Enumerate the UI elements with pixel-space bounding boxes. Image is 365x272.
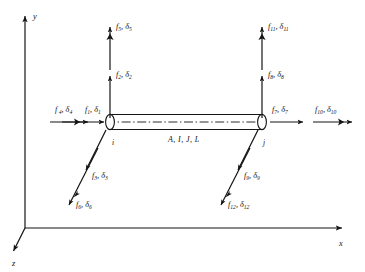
dof-label-f11: f11, δ11 xyxy=(268,22,289,32)
beam-element-figure: y x z i j A, I, J, L f 4, δ4 xyxy=(0,0,365,272)
diagram-canvas: y x z i j A, I, J, L f 4, δ4 xyxy=(0,0,365,272)
dof-label-f5: f5, δ5 xyxy=(116,22,132,32)
section-properties-label: A, I, J, L xyxy=(167,135,200,144)
dof-label-f2: f2, δ2 xyxy=(116,70,132,80)
dof-label-f10: f10, δ10 xyxy=(315,105,337,115)
dof-arrow-f5: f5, δ5 xyxy=(106,22,132,70)
dof-group-node-i: f 4, δ4 f1, δ1 f2, δ2 f5, δ5 xyxy=(50,22,132,210)
dof-label-f4: f 4, δ4 xyxy=(55,105,72,115)
dof-arrow-f10: f10, δ10 xyxy=(313,105,352,126)
dof-arrow-f9: f9, δ9 xyxy=(238,130,260,181)
node-i-label: i xyxy=(112,138,114,147)
dof-arrow-f3: f3, δ3 xyxy=(86,130,108,181)
x-axis-label: x xyxy=(338,239,343,248)
z-axis-line xyxy=(14,228,26,251)
dof-group-node-j: f7, δ7 f10, δ10 f8, δ8 f11, δ11 xyxy=(221,22,352,210)
dof-arrow-f2: f2, δ2 xyxy=(110,70,132,118)
dof-label-f3: f3, δ3 xyxy=(92,171,108,181)
dof-label-f6: f6, δ6 xyxy=(76,200,92,210)
dof-arrow-f11: f11, δ11 xyxy=(258,22,288,70)
y-axis-label: y xyxy=(32,12,37,21)
beam-element: i j A, I, J, L xyxy=(106,114,267,147)
dof-label-f9: f9, δ9 xyxy=(244,171,260,181)
dof-label-f8: f8, δ8 xyxy=(268,70,284,80)
dof-label-f12: f12, δ12 xyxy=(228,200,250,210)
dof-label-f7: f7, δ7 xyxy=(272,105,288,115)
z-axis-label: z xyxy=(11,259,16,268)
node-j-label: j xyxy=(262,138,265,147)
dof-arrow-f7: f7, δ7 xyxy=(270,105,303,122)
dof-label-f1: f1, δ1 xyxy=(85,105,101,115)
